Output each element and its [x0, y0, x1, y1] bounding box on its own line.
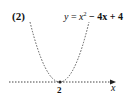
vertex-point — [58, 80, 61, 83]
equation-eq: = — [68, 11, 79, 22]
parabola-diagram: (2) y = x2 − 4x + 4 2 x — [0, 0, 131, 102]
equation-label: y = x2 − 4x + 4 — [63, 11, 123, 22]
figure-label: (2) — [12, 10, 25, 23]
parabola-curve — [30, 22, 89, 82]
x-axis-label: x — [110, 82, 116, 93]
tick-label-2: 2 — [57, 85, 62, 95]
equation-rest: − 4x + 4 — [87, 11, 123, 22]
